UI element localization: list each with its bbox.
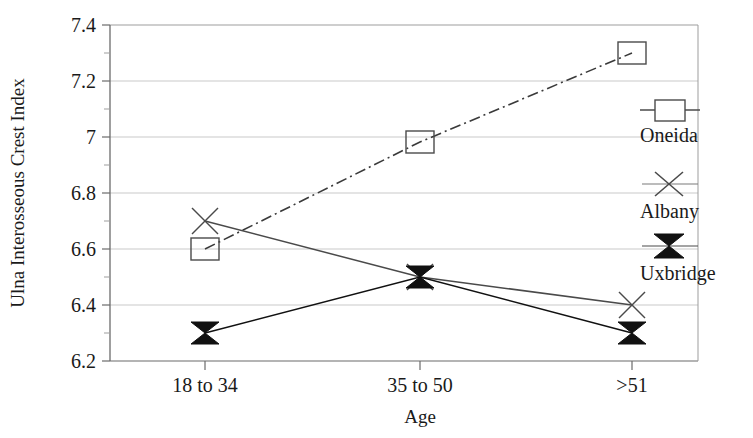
x-tick-label: >51 [616,374,647,396]
x-axis-title: Age [404,406,436,427]
y-tick-label: 7.2 [71,70,96,92]
open-square-icon [655,100,685,121]
legend-label-oneida: Oneida [640,124,698,146]
legend-label-uxbridge: Uxbridge [640,262,716,285]
line-chart: 7.4 7.2 7 6.8 6.6 6.4 6.2 Ulna Interosse… [0,0,753,438]
legend-label-albany: Albany [640,200,699,223]
x-tick-label: 18 to 34 [172,374,238,396]
y-axis-title: Ulna Interosseous Crest Index [7,78,28,308]
chart-figure: 7.4 7.2 7 6.8 6.6 6.4 6.2 Ulna Interosse… [0,0,753,438]
y-tick-label: 7.4 [71,14,96,36]
y-tick-label: 6.2 [71,350,96,372]
y-tick-label: 6.6 [71,238,96,260]
x-tick-label: 35 to 50 [387,374,453,396]
y-tick-label: 6.4 [71,294,96,316]
y-tick-label: 7 [86,126,96,148]
y-tick-label: 6.8 [71,182,96,204]
